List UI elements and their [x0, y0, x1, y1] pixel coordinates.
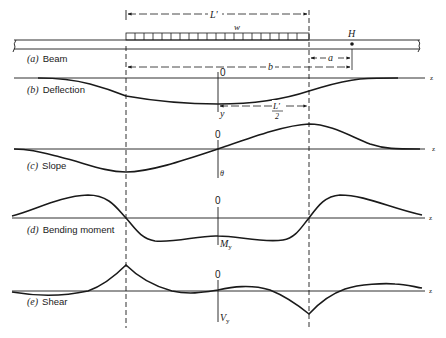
moment-my-label: My	[219, 238, 232, 251]
beam-body	[13, 40, 420, 52]
point-h-marker	[350, 42, 354, 46]
shear-panel: z 0 (e)Shear Vy	[12, 265, 432, 325]
slope-panel: z 0 (c)Slope θ	[14, 124, 435, 178]
panel-d-label: (d)Bending moment	[27, 224, 115, 236]
panel-e-label: (e)Shear	[27, 296, 67, 308]
shear-vy-label: Vy	[220, 312, 230, 325]
dimension-b-label: b	[268, 61, 273, 72]
slope-z-label: z	[432, 145, 435, 153]
deflection-panel: z 0 (b)Deflection L' 2 y	[14, 67, 433, 122]
distributed-load-blocks	[126, 33, 309, 40]
moment-z-label: z	[429, 214, 432, 222]
dimension-a-label: a	[328, 52, 333, 63]
beam-on-elastic-foundation-diagram: L' w H (a)Beam a	[0, 0, 446, 338]
point-h-label: H	[347, 28, 356, 39]
slope-theta-label: θ	[220, 169, 224, 178]
half-length-numerator: L'	[272, 101, 281, 111]
deflection-origin-label: 0	[220, 67, 226, 78]
shear-origin-label: 0	[215, 269, 221, 280]
shear-z-label: z	[429, 287, 432, 295]
deflection-z-label: z	[430, 74, 433, 82]
panel-a-label: (a)Beam	[27, 53, 68, 65]
moment-origin-label: 0	[215, 195, 221, 206]
half-length-denominator: 2	[275, 112, 279, 121]
slope-origin-label: 0	[215, 129, 221, 140]
bending-moment-panel: z 0 (d)Bending moment My	[12, 195, 432, 251]
distributed-load-label: w	[234, 22, 240, 32]
panel-c-label: (c)Slope	[27, 160, 66, 172]
load-length-label: L'	[209, 9, 219, 20]
beam-panel: L' w H (a)Beam a	[13, 7, 420, 72]
deflection-y-label: y	[219, 108, 225, 119]
panel-b-label: (b)Deflection	[27, 84, 85, 96]
